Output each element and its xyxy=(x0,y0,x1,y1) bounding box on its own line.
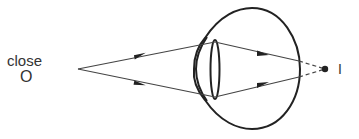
eye-ray-diagram xyxy=(0,0,359,139)
lens xyxy=(211,40,220,99)
cornea xyxy=(196,37,207,101)
ray-lower-extension xyxy=(299,69,325,77)
image-point-dot xyxy=(322,66,328,72)
image-label: I xyxy=(338,62,342,76)
ray-upper-extension xyxy=(299,61,325,69)
object-label: O xyxy=(20,69,32,85)
object-caption: close xyxy=(7,53,42,68)
